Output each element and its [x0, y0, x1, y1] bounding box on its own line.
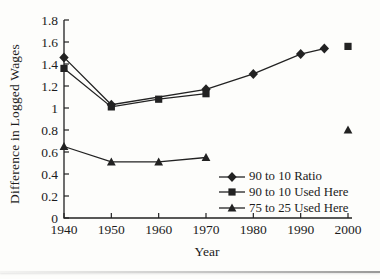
y-tick-label: 1.8 [41, 13, 58, 28]
y-tick-label: 1.2 [41, 79, 58, 94]
wage-inequality-figure: 00.20.40.60.811.21.41.61.819401950196019… [0, 0, 380, 279]
x-tick-label: 1940 [51, 222, 78, 237]
y-tick-label: 0.8 [41, 123, 58, 138]
plot-area: 00.20.40.60.811.21.41.61.819401950196019… [0, 0, 380, 279]
x-tick-label: 1960 [145, 222, 172, 237]
triangle-data-point-marker [60, 142, 69, 150]
legend-item-90-10-ratio: 90 to 10 Ratio [219, 169, 349, 185]
legend-label: 75 to 25 Used Here [249, 202, 349, 215]
square-data-point-marker [108, 103, 115, 110]
x-tick-label: 1950 [98, 222, 125, 237]
y-tick-label: 1 [51, 101, 58, 116]
chart-legend: 90 to 10 Ratio 90 to 10 Used Here 75 to … [219, 169, 349, 216]
x-axis-title: Year [195, 244, 220, 260]
square-marker-icon [219, 186, 245, 198]
y-tick-label: 0.2 [41, 189, 58, 204]
square-data-point-marker [155, 96, 162, 103]
square-data-point-marker [228, 189, 235, 196]
page-edge-shadow [0, 271, 380, 273]
series-line-0 [64, 49, 324, 105]
triangle-data-point-marker [202, 153, 211, 161]
y-tick-label: 1.4 [41, 57, 58, 72]
y-tick-label: 0.4 [41, 167, 58, 182]
x-tick-label: 1980 [240, 222, 267, 237]
diamond-data-point-marker [296, 49, 305, 59]
legend-item-90-10-used-here: 90 to 10 Used Here [219, 185, 349, 201]
square-data-point-marker [202, 90, 209, 97]
y-tick-label: 1.6 [41, 35, 58, 50]
square-data-point-marker [344, 43, 351, 50]
diamond-marker-icon [219, 171, 245, 183]
square-data-point-marker [60, 65, 67, 72]
diamond-data-point-marker [249, 69, 258, 79]
x-tick-label: 1990 [287, 222, 314, 237]
y-tick-label: 0.6 [41, 145, 58, 160]
legend-label: 90 to 10 Used Here [249, 186, 349, 199]
diamond-data-point-marker [227, 172, 236, 182]
x-tick-label: 2000 [335, 222, 362, 237]
diamond-data-point-marker [320, 44, 329, 54]
series-line-2 [64, 147, 206, 162]
triangle-marker-icon [219, 202, 245, 214]
y-axis-title: Difference in Logged Wages [7, 42, 23, 206]
legend-item-75-25-used-here: 75 to 25 Used Here [219, 200, 349, 216]
legend-label: 90 to 10 Ratio [249, 170, 322, 183]
x-tick-label: 1970 [193, 222, 220, 237]
triangle-data-point-marker [344, 126, 353, 134]
